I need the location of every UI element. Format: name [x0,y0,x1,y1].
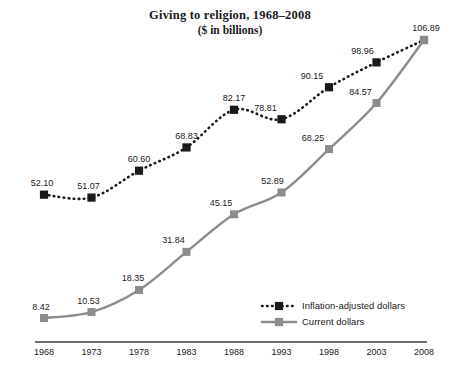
data-point-marker [40,191,48,199]
x-tick-label: 1998 [319,347,339,357]
data-point-label: 10.53 [77,296,100,306]
data-point-label: 8.42 [32,302,50,312]
data-point-label: 90.15 [301,71,324,81]
data-point-marker [325,83,333,91]
x-tick-label: 1978 [129,347,149,357]
chart-container: Giving to religion, 1968–2008 ($ in bill… [0,0,460,379]
x-tick-label: 2003 [366,347,386,357]
data-point-marker [135,167,143,175]
data-point-label: 78.81 [254,103,277,113]
data-point-marker [373,99,381,107]
data-point-label: 31.84 [162,235,185,245]
legend-item-label: Inflation-adjusted dollars [302,300,405,311]
data-point-marker [88,308,96,316]
data-point-marker [278,188,286,196]
data-point-label: 52.89 [261,176,284,186]
x-tick-label: 1993 [271,347,291,357]
data-point-label: 98.96 [351,46,374,56]
series-current-markers [40,36,428,322]
data-point-label: 45.15 [210,198,233,208]
x-tick-label: 1988 [224,347,244,357]
data-point-label: 60.60 [128,154,151,164]
x-tick-label: 1968 [34,347,54,357]
legend-marker-sample [275,318,283,326]
data-point-marker [230,106,238,114]
data-point-marker [420,36,428,44]
x-tick-label: 1973 [81,347,101,357]
series-inflation-adjusted-line [44,40,424,199]
data-point-label: 51.07 [77,181,100,191]
data-point-marker [230,210,238,218]
data-point-marker [182,143,190,151]
series-current-line [44,40,424,318]
chart-plot-area: 52.1051.0760.6068.8382.1778.8190.1598.96… [0,0,460,379]
data-point-label: 84.57 [349,87,372,97]
data-point-label: 18.35 [122,273,145,283]
data-point-marker [325,145,333,153]
data-point-label: 82.17 [223,93,246,103]
data-point-marker [135,286,143,294]
chart-legend: Inflation-adjusted dollarsCurrent dollar… [262,300,405,327]
data-point-marker [87,193,95,201]
data-point-label: 68.83 [175,131,198,141]
data-point-label: 52.10 [31,178,54,188]
data-point-marker [372,58,380,66]
data-point-marker [183,248,191,256]
data-point-label: 68.25 [302,133,325,143]
data-point-marker [277,115,285,123]
x-axis-tick-labels: 196819731978198319881993199820032008 [34,347,434,357]
data-point-marker [40,314,48,322]
series-inflation-adjusted-markers [40,36,428,202]
x-tick-label: 2008 [414,347,434,357]
legend-marker-sample [275,302,283,310]
x-tick-label: 1983 [176,347,196,357]
data-point-label: 106.89 [412,23,440,33]
legend-item-label: Current dollars [302,316,365,327]
